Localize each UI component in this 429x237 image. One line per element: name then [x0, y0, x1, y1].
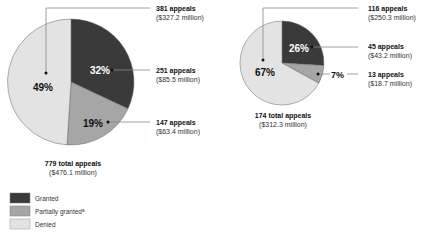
- right-pct-denied: 67%: [255, 67, 275, 78]
- right-pct-granted: 26%: [289, 43, 309, 54]
- left-pct-granted: 32%: [90, 65, 110, 76]
- left-pct-partial: 19%: [83, 118, 103, 129]
- left-partial-amount: ($63.4 million): [156, 128, 200, 136]
- right-pct-partial: 7%: [331, 70, 344, 80]
- left-total-label: 779 total appeals: [45, 160, 102, 168]
- left-denied-amount: ($327.2 million): [156, 14, 204, 22]
- left-total-amount: ($476.1 million): [49, 169, 97, 177]
- right-denied-amount: ($250.3 million): [368, 14, 416, 22]
- right-total-amount: ($312.3 million): [259, 121, 307, 129]
- right-pie: [240, 21, 324, 105]
- right-partial-amount: ($18.7 million): [368, 80, 412, 88]
- legend-label-partial: Partially granteda: [35, 208, 85, 217]
- legend-swatch-granted: [10, 193, 30, 203]
- left-granted-amount: ($85.5 million): [156, 76, 200, 84]
- right-denied-appeals: 116 appeals: [368, 5, 407, 13]
- left-pct-denied: 49%: [33, 82, 53, 93]
- legend: Granted Partially granteda Denied: [10, 193, 85, 229]
- right-partial-appeals: 13 appeals: [368, 71, 404, 79]
- left-denied-appeals: 381 appeals: [156, 5, 196, 13]
- legend-label-denied: Denied: [35, 221, 56, 228]
- right-granted-appeals: 45 appeals: [368, 43, 404, 51]
- left-granted-appeals: 251 appeals: [156, 67, 196, 75]
- right-total-label: 174 total appeals: [255, 112, 312, 120]
- legend-swatch-denied: [10, 219, 30, 229]
- left-partial-appeals: 147 appeals: [156, 119, 196, 127]
- legend-label-granted: Granted: [35, 195, 59, 202]
- right-granted-amount: ($43.2 million): [368, 52, 412, 60]
- legend-swatch-partial: [10, 206, 30, 216]
- chart-canvas: 32% 19% 49% 381 appeals ($327.2 million)…: [0, 0, 429, 237]
- left-pie: [8, 19, 134, 145]
